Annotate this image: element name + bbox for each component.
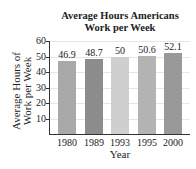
y-tick-label: 40 bbox=[30, 67, 46, 77]
x-tick-label: 1993 bbox=[105, 137, 135, 148]
y-tick-mark bbox=[46, 57, 50, 58]
y-tick-label: 50 bbox=[30, 52, 46, 62]
x-tick-label: 1980 bbox=[52, 137, 82, 148]
bar-1995 bbox=[138, 56, 156, 134]
y-tick-label: 60 bbox=[30, 36, 46, 46]
y-tick-mark bbox=[46, 72, 50, 73]
bar-value-label: 50 bbox=[105, 46, 135, 56]
bar-1980 bbox=[58, 61, 76, 134]
bar-1993 bbox=[111, 57, 129, 135]
y-tick-mark bbox=[46, 103, 50, 104]
x-tick-label: 2000 bbox=[158, 137, 188, 148]
chart-title-line-1: Average Hours Americans bbox=[50, 10, 190, 22]
y-tick-mark bbox=[46, 88, 50, 89]
y-tick-mark bbox=[46, 41, 50, 42]
bar-value-label: 46.9 bbox=[52, 50, 82, 60]
bar-value-label: 52.1 bbox=[158, 42, 188, 52]
plot-area: 10203040506046.9198048.7198950199350.619… bbox=[49, 41, 190, 135]
y-tick-label: 20 bbox=[30, 98, 46, 108]
bar-2000 bbox=[164, 53, 182, 134]
chart-title: Average Hours Americans Work per Week bbox=[50, 10, 190, 34]
bar-1989 bbox=[85, 59, 103, 134]
y-tick-mark bbox=[46, 119, 50, 120]
x-axis-label: Year bbox=[50, 148, 190, 160]
y-tick-label: 10 bbox=[30, 114, 46, 124]
chart-title-line-2: Work per Week bbox=[50, 22, 190, 34]
y-tick-label: 30 bbox=[30, 83, 46, 93]
